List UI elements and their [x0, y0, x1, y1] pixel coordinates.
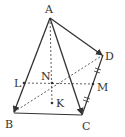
label-c: C	[82, 120, 90, 133]
label-n: N	[41, 70, 51, 83]
equal-mark-mc	[83, 97, 90, 102]
point-n	[51, 82, 54, 85]
tetrahedron-diagram: A B C D L M N K	[0, 0, 125, 137]
label-l: L	[14, 77, 22, 90]
dashed-ak	[50, 18, 52, 103]
point-l	[23, 82, 26, 85]
vector-ad	[50, 18, 102, 55]
label-d: D	[105, 50, 114, 63]
vector-ab	[14, 18, 50, 112]
point-k	[51, 102, 54, 105]
diagram-canvas: A B C D L M N K	[0, 0, 125, 137]
label-m: M	[97, 81, 108, 94]
label-b: B	[5, 118, 13, 131]
edge-bc	[14, 113, 82, 115]
label-k: K	[56, 97, 65, 110]
label-a: A	[44, 3, 54, 16]
point-m	[92, 83, 95, 86]
vector-ac	[50, 18, 82, 114]
